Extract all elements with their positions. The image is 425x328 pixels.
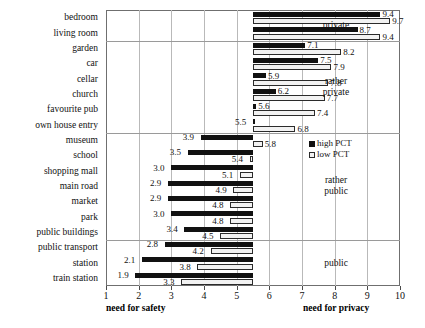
category-label-main-road: main road [60,181,98,191]
bar-low-train-station [181,279,253,285]
table-row: 3.44.5 [106,225,400,240]
category-label-museum: museum [66,135,98,145]
legend-label-low-pct: low PCT [317,149,349,160]
bar-high-church [253,89,276,94]
category-label-garden: garden [72,43,98,53]
category-label-shopping-mall: shopping mall [44,166,98,176]
legend-item-low-pct: low PCT [309,149,352,160]
table-row: 7.18.2 [106,41,400,56]
category-label-train-station: train station [53,273,98,283]
category-label-bedroom: bedroom [64,12,98,22]
x-axis: 12345678910 [106,286,400,304]
bar-high-public-buildings [184,227,253,232]
bar-high-public-transport [165,242,253,247]
category-label-public-buildings: public buildings [37,227,99,237]
legend-item-high-pct: high PCT [309,138,352,149]
bar-low-public-transport [211,248,253,254]
plot-area: 9.49.78.79.47.18.27.57.95.97.86.27.75.67… [106,10,400,286]
bar-low-own-house-entry [253,126,295,132]
bar-low-car [253,64,331,70]
bar-high-shopping-mall [171,165,253,170]
table-row: 3.04.8 [106,209,400,224]
bar-high-own-house-entry [253,119,255,124]
value-label-high-park: 3.0 [153,210,164,219]
x-tick-label-1: 1 [104,290,109,301]
category-label-favourite-pub: favourite pub [47,104,98,114]
legend-swatch-low-pct [309,152,315,158]
category-label-public-transport: public transport [38,242,98,252]
x-axis-title-right: need for privacy [303,303,369,314]
zone-label-rather-public: rather public [301,175,371,197]
value-label-high-museum: 3.9 [183,133,194,142]
x-axis-title-left: need for safety [106,303,165,314]
bar-low-favourite-pub [253,110,315,116]
bar-high-cellar [253,73,266,78]
bar-low-main-road [233,187,253,193]
category-label-car: car [86,58,98,68]
x-tick-label-7: 7 [300,290,305,301]
value-label-high-public-transport: 2.8 [147,240,158,249]
chart-root: bedroomliving roomgardencarcellarchurchf… [0,0,425,328]
bar-high-museum [201,135,253,140]
category-label-market: market [72,196,98,206]
category-label-church: church [72,89,98,99]
category-label-park: park [81,212,98,222]
zone-label-rather-private: rather private [301,76,371,98]
table-row: 2.84.2 [106,240,400,255]
x-tick-label-3: 3 [169,290,174,301]
bar-high-station [142,257,253,262]
x-tick-label-9: 9 [365,290,370,301]
category-label-own-house-entry: own house entry [35,120,98,130]
table-row: 5.56.8 [106,117,400,132]
x-tick-label-8: 8 [332,290,337,301]
value-label-high-main-road: 2.9 [150,179,161,188]
category-label-cellar: cellar [77,74,98,84]
table-row: 1.93.3 [106,271,400,286]
value-label-high-own-house-entry: 5.5 [235,118,246,127]
bar-low-living-room [253,34,380,40]
bar-high-garden [253,43,305,48]
zone-label-public: public [301,258,371,269]
value-label-high-school: 3.5 [170,148,181,157]
legend-label-high-pct: high PCT [317,138,352,149]
bar-low-public-buildings [220,233,253,239]
x-tick-label-5: 5 [234,290,239,301]
x-tick-label-4: 4 [202,290,207,301]
table-row: 3.95.8 [106,133,400,148]
bar-low-shopping-mall [240,172,253,178]
table-row: 7.57.9 [106,56,400,71]
bar-low-park [230,218,253,224]
x-tick-label-2: 2 [136,290,141,301]
bar-high-train-station [135,273,253,278]
bar-high-main-road [168,181,253,186]
bar-low-school [250,156,253,162]
value-label-high-train-station: 1.9 [117,271,128,280]
table-row: 3.55.4 [106,148,400,163]
bar-high-car [253,58,318,63]
bar-low-market [230,202,253,208]
category-label-school: school [73,150,98,160]
x-tick-label-6: 6 [267,290,272,301]
zone-label-private: private [301,20,371,31]
bar-low-garden [253,49,341,55]
category-label-station: station [73,258,98,268]
table-row: 5.67.4 [106,102,400,117]
bar-low-station [197,264,253,270]
category-axis-labels: bedroomliving roomgardencarcellarchurchf… [0,10,104,286]
bar-high-market [168,196,253,201]
x-tick-label-10: 10 [395,290,405,301]
value-label-high-public-buildings: 3.4 [166,225,177,234]
legend-swatch-high-pct [309,141,315,147]
chart-legend: high PCT low PCT [309,138,352,160]
category-label-living-room: living room [53,28,98,38]
bar-high-school [188,150,253,155]
bar-high-favourite-pub [253,104,256,109]
bar-rows: 9.49.78.79.47.18.27.57.95.97.86.27.75.67… [106,10,400,286]
value-label-high-market: 2.9 [150,194,161,203]
bar-high-bedroom [253,12,380,17]
value-label-high-station: 2.1 [124,256,135,265]
value-label-high-shopping-mall: 3.0 [153,164,164,173]
bar-low-museum [253,141,263,147]
